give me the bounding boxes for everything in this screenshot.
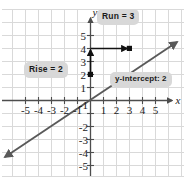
y-tick-labels-negative: -1 -2 -3 -4 -5	[79, 99, 89, 172]
grid-vertical-lines	[13, 9, 182, 176]
x-tick-label: -4	[34, 104, 44, 116]
x-tick-label: 4	[140, 104, 146, 116]
x-tick-label: -3	[47, 104, 57, 116]
slope-intercept-graph-figure: -5 -4 -3 -2 -1 1 2 3 4 5 1 2 3 4 5 -1 -2…	[0, 0, 186, 183]
grid-horizontal-lines	[2, 10, 184, 177]
y-tick-label: -5	[79, 160, 89, 172]
y-tick-label: -4	[79, 147, 89, 159]
run-callout-label: Run = 3	[97, 9, 139, 25]
point-second	[127, 46, 132, 51]
rise-callout-label: Rise = 2	[24, 62, 68, 78]
x-tick-labels-negative: -5 -4 -3 -2 -1	[21, 104, 82, 116]
y-tick-label: 4	[81, 43, 87, 55]
y-tick-label: 5	[81, 30, 87, 42]
x-tick-label: -2	[60, 104, 69, 116]
point-y-intercept	[88, 72, 93, 77]
y-tick-label: 1	[81, 82, 87, 94]
coordinate-plane-svg: -5 -4 -3 -2 -1 1 2 3 4 5 1 2 3 4 5 -1 -2…	[0, 0, 186, 183]
y-tick-label: -3	[79, 134, 89, 146]
x-tick-labels-positive: 1 2 3 4 5	[101, 104, 159, 116]
x-tick-label: 2	[114, 104, 120, 116]
y-tick-label: 2	[81, 69, 87, 81]
x-tick-label: 1	[101, 104, 107, 116]
y-tick-label: -2	[79, 121, 88, 133]
y-tick-label: 3	[81, 56, 87, 68]
y-tick-labels-positive: 1 2 3 4 5	[81, 30, 87, 94]
x-tick-label: 3	[127, 104, 133, 116]
x-axis-label: x	[175, 94, 181, 106]
y-intercept-callout-label: y-intercept: 2	[110, 72, 172, 87]
y-tick-label: -1	[79, 99, 88, 111]
x-tick-label: -5	[21, 104, 31, 116]
x-tick-label: 5	[153, 104, 159, 116]
